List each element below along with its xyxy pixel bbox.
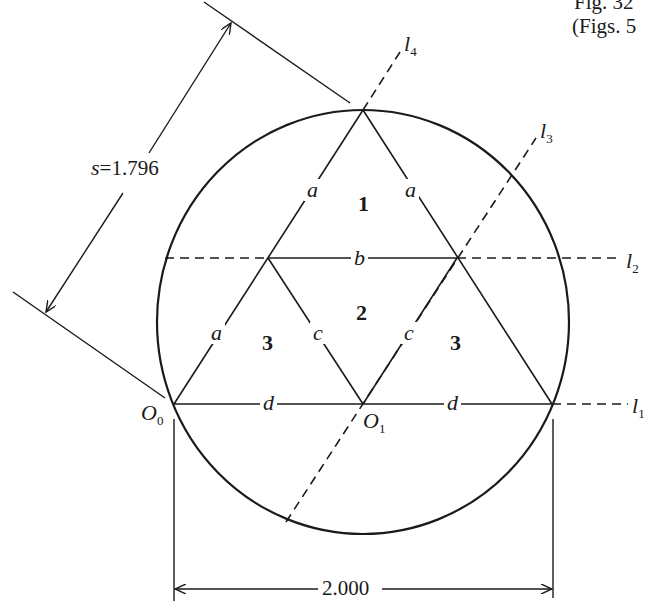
segment-b: b — [351, 247, 368, 269]
figure-caption-line2: (Figs. 5 — [572, 16, 636, 37]
s-dim-line-lower — [46, 193, 123, 312]
s-value: 1.796 — [111, 156, 158, 180]
segment-a-top-left: a — [304, 179, 321, 201]
point-o0-label: O0 — [141, 402, 163, 427]
segment-c-right: c — [401, 322, 417, 344]
segment-c-left: c — [310, 322, 326, 344]
line-l4-label: l4 — [404, 33, 417, 58]
geometry-drawing — [0, 0, 653, 611]
region-3-left-label: 3 — [262, 332, 273, 354]
s-variable: s — [91, 155, 100, 180]
region-1-label: 1 — [358, 193, 369, 215]
segment-d-left: d — [260, 392, 277, 414]
segment-d-right: d — [444, 392, 461, 414]
line-l1-label: l1 — [632, 395, 645, 420]
s-extension-top — [204, 2, 350, 103]
region-3-right-label: 3 — [450, 332, 461, 354]
s-dim-line-upper — [149, 23, 231, 153]
dimension-width-label: 2.000 — [322, 578, 369, 599]
diagram-canvas: Fig. 32 (Figs. 5 s=1.796 2.000 O0 O1 l1 … — [0, 0, 653, 611]
line-l4-dashed — [363, 52, 400, 110]
point-o1-label: O1 — [363, 410, 385, 435]
s-extension-bottom — [13, 292, 165, 398]
region-2-label: 2 — [356, 302, 367, 324]
figure-caption-line1: Fig. 32 — [574, 0, 634, 13]
line-l2-label: l2 — [626, 250, 639, 275]
line-l3-label: l3 — [540, 120, 553, 145]
s-equals: = — [100, 156, 112, 180]
segment-a-top-right: a — [402, 179, 419, 201]
dimension-s-label: s=1.796 — [88, 157, 162, 179]
segment-a-bottom-left: a — [208, 322, 225, 344]
